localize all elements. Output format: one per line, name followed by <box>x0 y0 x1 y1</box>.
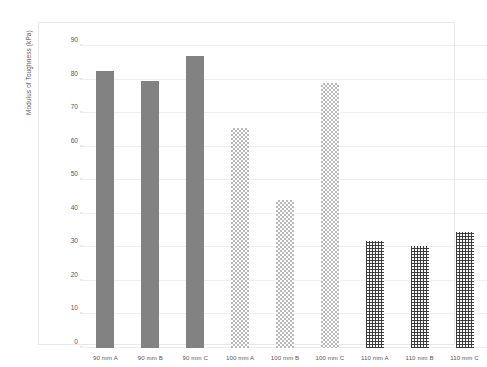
bar <box>456 232 474 348</box>
y-axis-tick-label: 70 <box>71 103 78 110</box>
y-axis-tick-label: 80 <box>71 69 78 76</box>
x-axis-tick-label: 110 mm C <box>450 354 478 361</box>
y-axis-tick-label: 30 <box>71 237 78 244</box>
figure-caption <box>28 356 448 366</box>
y-axis-label: Modulus of Toughness (kPa) <box>25 0 32 115</box>
bar-group: 90 mm A <box>83 46 128 348</box>
y-axis-tick-label: 10 <box>71 304 78 311</box>
bar-group: 110 mm A <box>352 46 397 348</box>
bar <box>231 128 249 348</box>
bar-group: 110 mm C <box>442 46 487 348</box>
y-axis-tick-label: 50 <box>71 170 78 177</box>
bar-group: 110 mm B <box>397 46 442 348</box>
bar-group: 100 mm C <box>307 46 352 348</box>
bar <box>186 56 204 348</box>
bar-group: 100 mm A <box>218 46 263 348</box>
y-axis-tick-label: 40 <box>71 203 78 210</box>
y-axis-tick-label: 90 <box>71 36 78 43</box>
y-axis-tick-label: 0 <box>74 338 78 345</box>
bar <box>141 81 159 348</box>
plot-area: 0102030405060708090 90 mm A90 mm B90 mm … <box>83 46 487 348</box>
bar <box>96 71 114 348</box>
bar <box>411 246 429 348</box>
y-axis-tick-label: 20 <box>71 270 78 277</box>
bar <box>366 241 384 348</box>
bar-group: 90 mm B <box>128 46 173 348</box>
bar <box>276 200 294 348</box>
bar-group: 100 mm B <box>263 46 308 348</box>
bar <box>321 83 339 348</box>
y-axis-tick-label: 60 <box>71 136 78 143</box>
bar-group: 90 mm C <box>173 46 218 348</box>
chart-figure: Modulus of Toughness (kPa) 0102030405060… <box>38 22 455 345</box>
bar-series: 90 mm A90 mm B90 mm C100 mm A100 mm B100… <box>83 46 487 348</box>
